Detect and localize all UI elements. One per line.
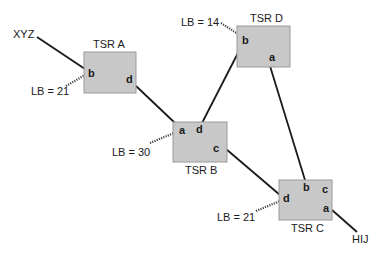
node-tsr-c: TSR C b c d a	[279, 180, 332, 234]
link-xyz-tsr-a	[37, 37, 85, 69]
endpoint-hij: HIJ	[352, 233, 369, 245]
tsr-a-port-d: d	[126, 73, 133, 85]
tsr-b-port-c: c	[213, 142, 219, 154]
lb-stub-tsr-d	[221, 23, 238, 34]
tsr-a-title: TSR A	[93, 38, 125, 50]
link-tsr-b-tsr-d	[202, 49, 240, 123]
tsr-c-port-b: b	[303, 181, 310, 193]
lb-label-tsr-c: LB = 21	[217, 211, 255, 223]
tsr-c-port-d: d	[283, 192, 290, 204]
link-tsr-c-hij	[332, 210, 357, 232]
tsr-c-port-c: c	[322, 183, 328, 195]
lb-label-tsr-a: LB = 21	[31, 85, 69, 97]
node-tsr-b: TSR B a d c	[173, 122, 227, 176]
tsr-d-port-b: b	[242, 34, 249, 46]
lb-label-tsr-b: LB = 30	[112, 146, 150, 158]
lsp-diagram: TSR A b d TSR D b a TSR B a d c TSR C b …	[0, 0, 382, 255]
link-tsr-d-tsr-c	[270, 66, 305, 180]
link-tsr-a-tsr-b	[136, 86, 175, 123]
lb-label-tsr-d: LB = 14	[181, 16, 219, 28]
node-tsr-a: TSR A b d	[84, 38, 136, 93]
tsr-b-port-a: a	[179, 124, 186, 136]
lb-stub-tsr-b	[150, 133, 174, 143]
tsr-a-port-b: b	[88, 67, 95, 79]
node-tsr-d: TSR D b a	[237, 12, 290, 67]
tsr-d-box	[237, 26, 290, 67]
tsr-c-port-a: a	[323, 202, 330, 214]
tsr-b-port-d: d	[196, 123, 203, 135]
link-tsr-b-tsr-c	[226, 149, 280, 195]
tsr-b-title: TSR B	[185, 164, 217, 176]
lb-stub-tsr-c	[256, 201, 280, 211]
endpoint-xyz: XYZ	[13, 28, 35, 40]
tsr-d-port-a: a	[269, 51, 276, 63]
tsr-d-title: TSR D	[250, 12, 283, 24]
tsr-c-title: TSR C	[291, 222, 324, 234]
